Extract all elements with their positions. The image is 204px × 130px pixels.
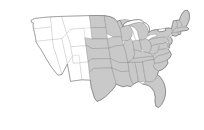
- us-map-svg: [0, 0, 204, 130]
- us-choropleth-map-figure: [0, 0, 204, 130]
- state-SD[interactable]: [91, 27, 107, 39]
- state-ND[interactable]: [90, 16, 107, 28]
- state-OR[interactable]: [34, 27, 53, 41]
